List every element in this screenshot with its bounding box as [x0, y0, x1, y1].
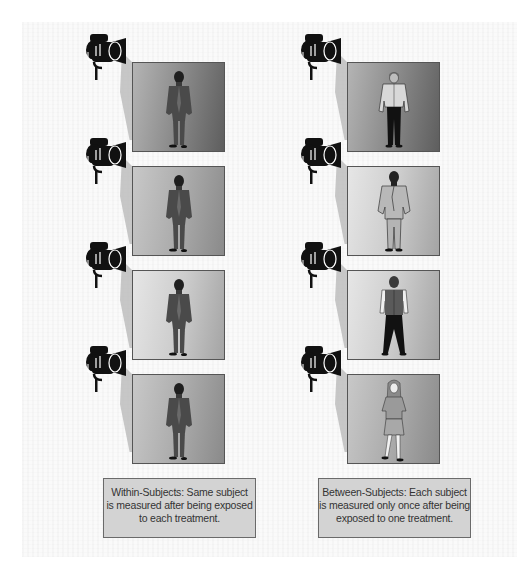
video-camera-icon: [297, 30, 343, 80]
caption-line: Between-Subjects: Each subject: [319, 486, 470, 499]
within-subjects-caption: Within-Subjects: Same subject is measure…: [103, 478, 256, 538]
caption-line: to each treatment.: [104, 512, 255, 525]
within-subjects-panel-2: [82, 134, 242, 244]
woman-in-skirt-figure: [348, 375, 440, 464]
between-subjects-caption: Between-Subjects: Each subject is measur…: [318, 478, 471, 538]
between-subjects-panel-1: [297, 30, 457, 140]
video-camera-icon: [82, 30, 128, 80]
caption-line: exposed to one treatment.: [319, 512, 470, 525]
caption-line: is measured only once after being: [319, 499, 470, 512]
video-camera-icon: [297, 134, 343, 184]
within-subjects-panel-1: [82, 30, 242, 140]
video-camera-icon: [82, 238, 128, 288]
man-in-dark-suit-figure: [133, 375, 225, 464]
within-subjects-panel-4: [82, 342, 242, 452]
subject-frame: [347, 374, 440, 464]
caption-line: Within-Subjects: Same subject: [104, 486, 255, 499]
between-subjects-panel-4: [297, 342, 457, 452]
caption-line: is measured after being exposed: [104, 499, 255, 512]
video-camera-icon: [82, 134, 128, 184]
between-subjects-panel-2: [297, 134, 457, 244]
video-camera-icon: [82, 342, 128, 392]
between-subjects-panel-3: [297, 238, 457, 348]
video-camera-icon: [297, 342, 343, 392]
within-subjects-panel-3: [82, 238, 242, 348]
video-camera-icon: [297, 238, 343, 288]
subject-frame: [132, 374, 225, 464]
